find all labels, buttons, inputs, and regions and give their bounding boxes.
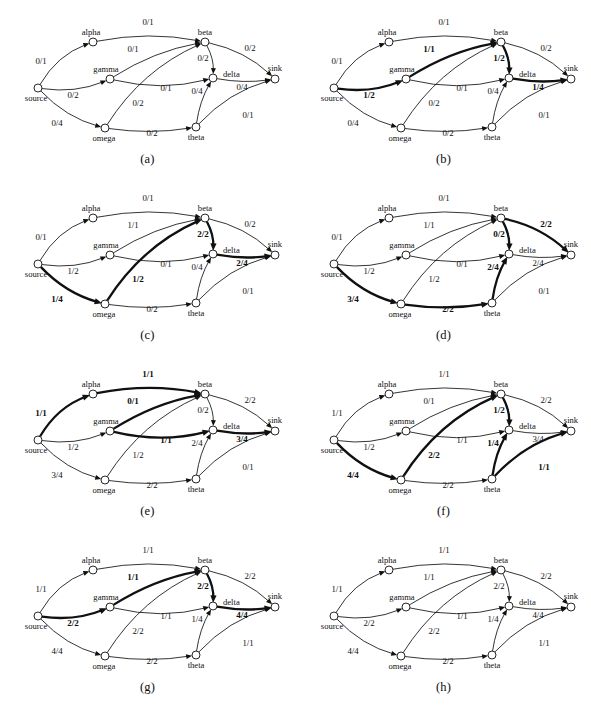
edge-flow-label-source-alpha: 1/1	[35, 584, 46, 594]
edge-source-alpha	[40, 572, 86, 612]
edge-theta-sink	[199, 609, 268, 652]
node-theta	[488, 123, 496, 131]
edge-flow-label-theta-sink: 1/1	[242, 638, 253, 648]
edge-flow-label-theta-delta: 2/4	[191, 438, 203, 448]
flow-network-panel-f: sourcealphagammaomegabetadeltathetasink1…	[296, 352, 591, 528]
node-label-delta: delta	[223, 421, 240, 431]
edge-flow-label-omega-theta: 0/2	[442, 128, 453, 138]
edge-flow-label-beta-sink: 2/2	[540, 571, 551, 581]
arrowhead-icon-source-alpha	[83, 43, 89, 48]
edge-flow-label-theta-delta: 1/4	[191, 614, 203, 624]
edge-flow-label-delta-sink: 2/4	[236, 258, 248, 268]
edge-flow-label-gamma-beta: 1/1	[423, 220, 434, 230]
arrowhead-icon-theta-sink	[561, 255, 567, 260]
arrowhead-icon-gamma-delta	[203, 254, 209, 259]
node-omega	[101, 300, 109, 308]
node-label-sink: sink	[564, 63, 579, 73]
edge-flow-label-theta-delta: 1/4	[487, 438, 499, 448]
arrowhead-icon-theta-sink	[265, 255, 271, 260]
node-label-gamma: gamma	[93, 64, 118, 74]
edge-theta-sink	[199, 81, 268, 124]
node-label-alpha: alpha	[82, 27, 101, 37]
edge-flow-label-omega-theta: 0/2	[146, 304, 157, 314]
edge-flow-label-omega-beta: 2/2	[132, 626, 143, 636]
node-theta	[488, 299, 496, 307]
edge-flow-label-gamma-delta: 0/1	[456, 259, 467, 269]
node-label-delta: delta	[223, 69, 240, 79]
edge-flow-label-theta-delta: 2/4	[487, 262, 499, 272]
node-label-gamma: gamma	[389, 416, 414, 426]
node-delta	[209, 250, 217, 258]
edge-flow-label-beta-sink: 2/2	[244, 571, 255, 581]
node-alpha	[89, 566, 97, 574]
edge-flow-label-gamma-delta: 1/1	[456, 611, 467, 621]
edge-gamma-beta	[409, 571, 494, 605]
arrowhead-icon-source-alpha	[379, 395, 385, 400]
node-sink	[567, 75, 575, 83]
edge-flow-label-gamma-beta: 0/1	[127, 396, 139, 406]
arrowhead-icon-gamma-delta	[499, 430, 505, 435]
edge-flow-label-source-omega: 4/4	[347, 646, 359, 656]
node-label-source: source	[25, 269, 48, 279]
node-label-alpha: alpha	[82, 555, 101, 565]
edge-flow-label-gamma-beta: 1/1	[127, 572, 139, 582]
edge-source-alpha	[336, 44, 382, 84]
edge-gamma-beta	[113, 571, 198, 605]
arrowhead-icon-source-alpha	[83, 219, 89, 224]
edge-flow-label-omega-theta: 0/2	[146, 128, 157, 138]
edge-theta-sink	[495, 609, 564, 652]
edge-flow-label-source-gamma: 1/2	[67, 442, 78, 452]
node-label-delta: delta	[519, 421, 536, 431]
edge-flow-label-theta-delta: 0/4	[191, 262, 203, 272]
node-omega	[101, 652, 109, 660]
edge-source-alpha	[40, 396, 86, 436]
edge-flow-label-gamma-delta: 0/1	[160, 259, 171, 269]
arrowhead-icon-source-gamma	[395, 80, 403, 86]
edge-source-gamma	[42, 82, 103, 90]
edge-flow-label-beta-delta: 1/2	[493, 53, 505, 63]
node-label-theta: theta	[484, 484, 501, 494]
node-label-delta: delta	[519, 245, 536, 255]
node-label-gamma: gamma	[389, 240, 414, 250]
arrowhead-icon-gamma-delta	[203, 606, 209, 611]
node-label-theta: theta	[188, 484, 205, 494]
node-label-omega: omega	[93, 661, 116, 671]
edge-flow-label-theta-sink: 0/1	[538, 110, 549, 120]
node-theta	[192, 651, 200, 659]
edge-alpha-beta	[97, 388, 198, 393]
node-label-omega: omega	[389, 309, 412, 319]
arrowhead-icon-source-gamma	[396, 256, 403, 261]
node-label-beta: beta	[494, 27, 508, 37]
arrowhead-icon-beta-delta	[211, 68, 216, 74]
arrowhead-icon-source-omega	[95, 475, 101, 480]
edge-flow-label-gamma-beta: 1/1	[423, 44, 435, 54]
node-label-source: source	[321, 445, 344, 455]
node-label-alpha: alpha	[378, 27, 397, 37]
edge-flow-label-delta-sink: 4/4	[532, 610, 544, 620]
arrowhead-icon-source-omega	[391, 123, 397, 128]
arrowhead-icon-source-alpha	[379, 219, 385, 224]
node-label-delta: delta	[223, 245, 240, 255]
arrowhead-icon-theta-sink	[265, 431, 271, 436]
arrowhead-icon-source-gamma	[396, 608, 403, 613]
edge-flow-label-omega-theta: 2/2	[146, 480, 157, 490]
node-alpha	[385, 566, 393, 574]
arrowhead-icon-omega-theta	[482, 126, 488, 131]
node-label-omega: omega	[93, 133, 116, 143]
node-sink	[271, 251, 279, 259]
node-label-omega: omega	[93, 309, 116, 319]
flow-network-panel-d: sourcealphagammaomegabetadeltathetasink0…	[296, 176, 591, 352]
node-label-omega: omega	[389, 133, 412, 143]
node-label-theta: theta	[188, 132, 205, 142]
edge-flow-label-source-gamma: 0/2	[67, 90, 78, 100]
edge-theta-sink	[199, 257, 268, 300]
node-label-theta: theta	[188, 308, 205, 318]
edge-flow-label-beta-sink: 0/2	[540, 43, 551, 53]
node-beta	[497, 390, 505, 398]
edge-flow-label-source-gamma: 1/2	[67, 266, 78, 276]
node-beta	[497, 38, 505, 46]
edge-flow-label-gamma-delta: 0/1	[160, 83, 171, 93]
figure-grid: sourcealphagammaomegabetadeltathetasink0…	[0, 0, 591, 705]
node-delta	[209, 74, 217, 82]
edge-flow-label-source-gamma: 1/2	[363, 266, 374, 276]
